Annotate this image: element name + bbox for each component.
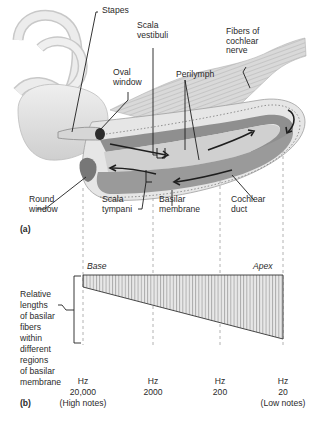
label-relative-lengths: Relative lengths of basilar fibers withi… <box>20 289 61 388</box>
label-basilar-membrane: Basilar membrane <box>159 195 200 214</box>
freq-unit-20000: Hz <box>63 377 103 387</box>
label-scala-tympani: Scala tympani <box>102 195 132 214</box>
freq-note-low: (Low notes) <box>250 399 316 409</box>
freq-unit-200: Hz <box>200 377 240 387</box>
panel-a-tag: (a) <box>20 225 31 235</box>
side-bracket <box>58 276 81 343</box>
label-scala-vestibuli: Scala vestibuli <box>137 21 168 40</box>
label-fibers-cochlear-nerve: Fibers of cochlear nerve <box>226 27 259 56</box>
label-oval-window: Oval window <box>113 68 142 87</box>
label-perilymph: Perilymph <box>176 70 214 80</box>
freq-value-20000: 20,000 <box>63 388 103 398</box>
panel-b-tag: (b) <box>20 399 31 409</box>
label-stapes: Stapes <box>102 6 129 16</box>
label-cochlear-duct: Cochlear duct <box>231 195 265 214</box>
basilar-fiber-wedge <box>83 275 283 339</box>
freq-note-high: (High notes) <box>53 399 113 409</box>
label-apex: Apex <box>253 262 273 272</box>
freq-unit-20: Hz <box>263 377 303 387</box>
freq-value-2000: 2000 <box>133 388 173 398</box>
label-round-window: Round window <box>29 195 58 214</box>
label-base: Base <box>87 262 107 272</box>
freq-value-200: 200 <box>200 388 240 398</box>
freq-unit-2000: Hz <box>133 377 173 387</box>
freq-value-20: 20 <box>263 388 303 398</box>
